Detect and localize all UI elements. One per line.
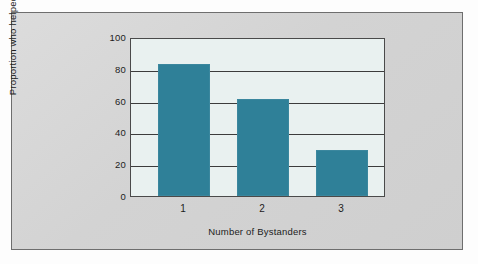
- x-axis-tick-labels: 1 2 3: [130, 203, 385, 217]
- x-tick-label: 3: [315, 203, 367, 214]
- y-axis-tick-labels: 100 80 60 40 20 0: [88, 38, 126, 197]
- y-tick-label: 60: [92, 97, 126, 107]
- x-tick-label: 1: [157, 203, 209, 214]
- bar-category-1: [158, 64, 210, 196]
- x-tick-label: 2: [236, 203, 288, 214]
- y-axis-title: Proportion who helped: [7, 0, 21, 125]
- bar-category-2: [237, 99, 289, 196]
- y-tick-label: 0: [92, 192, 126, 202]
- y-tick-label: 80: [92, 65, 126, 75]
- y-tick-label: 40: [92, 128, 126, 138]
- x-axis-title: Number of Bystanders: [130, 226, 385, 237]
- bar-series: [131, 39, 384, 196]
- figure-canvas: Proportion who helped 100 80 60 40 20 0 …: [0, 0, 478, 264]
- plot-area: [130, 38, 385, 197]
- bar-category-3: [316, 150, 368, 196]
- y-tick-label: 20: [92, 160, 126, 170]
- y-tick-label: 100: [92, 33, 126, 43]
